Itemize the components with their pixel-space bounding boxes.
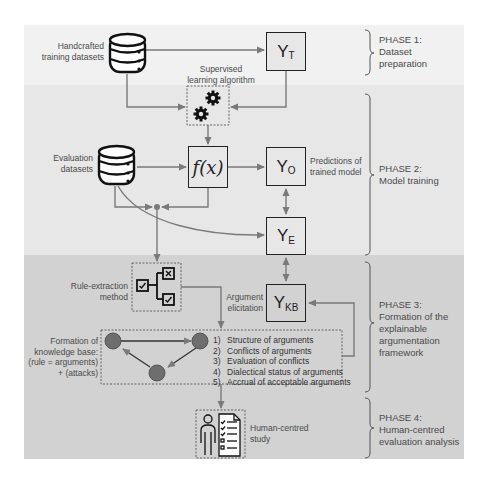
node-y-o-main: Y — [276, 157, 287, 177]
label-line: method — [60, 292, 128, 303]
label-predictions: Predictions of trained model — [310, 156, 370, 177]
node-y-e: YE — [266, 217, 306, 255]
step-number: 3) — [213, 356, 227, 367]
node-y-kb-main: Y — [274, 293, 285, 313]
phase-title: PHASE 1: — [379, 34, 427, 46]
phase-title: PHASE 4: — [379, 412, 459, 424]
phase-braces — [365, 30, 374, 458]
phase-line: preparation — [379, 58, 427, 70]
label-line: study — [250, 434, 320, 445]
step-number: 1) — [213, 335, 227, 346]
phase-line: Dataset — [379, 46, 427, 58]
label-line: Supervised — [176, 64, 266, 75]
label-line: + (attacks) — [20, 368, 98, 379]
phase-line: Human-centred — [379, 424, 459, 436]
gear-box — [187, 86, 229, 125]
database-icon-training — [110, 34, 145, 72]
step-item: 5)Accrual of acceptable arguments — [213, 377, 351, 388]
label-supervised-learning: Supervised learning algorithm — [176, 64, 266, 85]
label-line: Handcrafted — [24, 41, 104, 52]
argumentation-steps-list: 1)Structure of arguments 2)Conflicts of … — [213, 335, 351, 388]
phase-line: evaluation analysis — [379, 436, 459, 448]
step-number: 4) — [213, 367, 227, 378]
step-number: 5) — [213, 377, 227, 388]
step-item: 2)Conflicts of arguments — [213, 346, 351, 357]
node-y-kb-sub: KB — [285, 302, 298, 313]
step-text: Accrual of acceptable arguments — [227, 377, 351, 387]
step-item: 3)Evaluation of conflicts — [213, 356, 351, 367]
phase-line: Model training — [379, 175, 439, 187]
phase-4-label: PHASE 4: Human-centred evaluation analys… — [379, 412, 459, 448]
node-y-e-sub: E — [288, 235, 295, 246]
step-item: 4)Dialectical status of arguments — [213, 367, 351, 378]
node-model-function: f(x) — [188, 146, 228, 188]
label-handcrafted-datasets: Handcrafted training datasets — [24, 41, 104, 62]
node-y-t-sub: T — [289, 50, 295, 61]
step-item: 1)Structure of arguments — [213, 335, 351, 346]
decision-tree-icon — [137, 268, 174, 305]
node-y-o-sub: O — [288, 165, 296, 176]
label-line: training datasets — [24, 52, 104, 63]
phase-line: explainable — [379, 323, 448, 335]
gears-icon — [194, 91, 221, 122]
label-line: (rule = arguments) — [20, 357, 98, 368]
phase-line: framework — [379, 347, 448, 359]
label-line: Evaluation — [30, 153, 93, 164]
node-y-e-main: Y — [277, 226, 288, 246]
phase-line: Formation of the — [379, 311, 448, 323]
node-y-o: YO — [266, 147, 306, 186]
step-number: 2) — [213, 346, 227, 357]
phase-title: PHASE 3: — [379, 299, 448, 311]
step-text: Structure of arguments — [227, 335, 313, 345]
junction-dot — [154, 204, 160, 210]
argument-graph-icon — [105, 333, 208, 381]
label-line: elicitation — [215, 303, 263, 314]
phase-1-label: PHASE 1: Dataset preparation — [379, 34, 427, 70]
label-line: trained model — [310, 167, 370, 178]
person-checklist-icon — [201, 414, 240, 456]
label-line: learning algorithm — [176, 75, 266, 86]
phase-line: argumentation — [379, 335, 448, 347]
node-y-kb: YKB — [266, 284, 306, 322]
label-rule-extraction: Rule-extraction method — [60, 281, 128, 302]
label-knowledge-base: Formation of knowledge base: (rule = arg… — [20, 336, 98, 378]
node-y-t-main: Y — [277, 42, 288, 62]
label-evaluation-datasets: Evaluation datasets — [30, 153, 93, 174]
node-y-t: YT — [266, 32, 306, 71]
phase-title: PHASE 2: — [379, 163, 439, 175]
label-argument-elicitation: Argument elicitation — [215, 292, 263, 313]
step-text: Dialectical status of arguments — [227, 367, 343, 377]
node-fx-label: f(x) — [193, 157, 224, 178]
label-line: Predictions of — [310, 156, 370, 167]
label-human-study: Human-centred study — [250, 423, 320, 444]
label-line: Rule-extraction — [60, 281, 128, 292]
label-line: datasets — [30, 164, 93, 175]
label-line: knowledge base: — [20, 347, 98, 358]
phase-3-label: PHASE 3: Formation of the explainable ar… — [379, 299, 448, 359]
label-line: Argument — [215, 292, 263, 303]
step-text: Conflicts of arguments — [227, 346, 312, 356]
label-line: Formation of — [20, 336, 98, 347]
phase-2-label: PHASE 2: Model training — [379, 163, 439, 187]
database-icon-evaluation — [99, 146, 134, 184]
label-line: Human-centred — [250, 423, 320, 434]
step-text: Evaluation of conflicts — [227, 356, 309, 366]
